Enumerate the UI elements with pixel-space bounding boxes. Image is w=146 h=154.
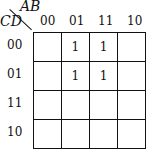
kmap-cell [118, 91, 146, 120]
col-label-2: 11 [98, 14, 113, 28]
col-label-3: 10 [127, 14, 142, 28]
kmap-row: 1 1 [34, 62, 146, 91]
kmap-cell [34, 91, 62, 120]
row-label-0: 00 [7, 38, 22, 52]
kmap-row [34, 91, 146, 120]
karnaugh-map-grid: 1 1 1 1 [33, 32, 146, 149]
row-label-3: 10 [7, 125, 22, 139]
kmap-cell [34, 33, 62, 62]
row-label-1: 01 [7, 67, 22, 81]
kmap-cell [118, 120, 146, 149]
kmap-cell [89, 120, 117, 149]
row-label-2: 11 [7, 96, 22, 110]
kmap-cell: 1 [89, 62, 117, 91]
col-variable-label: AB [20, 0, 40, 14]
kmap-cell [34, 120, 62, 149]
col-label-0: 00 [40, 14, 55, 28]
kmap-cell: 1 [89, 33, 117, 62]
kmap-cell [118, 62, 146, 91]
kmap-cell [89, 91, 117, 120]
kmap-cell [118, 33, 146, 62]
col-label-1: 01 [69, 14, 84, 28]
kmap-row: 1 1 [34, 33, 146, 62]
kmap-cell: 1 [61, 33, 89, 62]
kmap-cell: 1 [61, 62, 89, 91]
kmap-cell [61, 120, 89, 149]
kmap-cell [34, 62, 62, 91]
kmap-cell [61, 91, 89, 120]
row-variable-label: CD [0, 13, 22, 29]
kmap-row [34, 120, 146, 149]
